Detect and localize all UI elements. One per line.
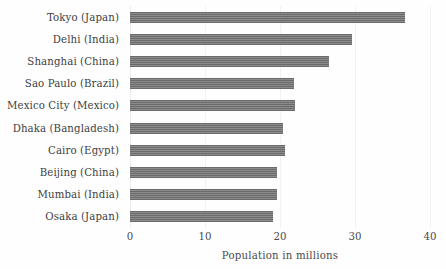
bar[interactable] — [130, 123, 283, 134]
bar[interactable] — [130, 34, 352, 45]
bar[interactable] — [130, 100, 295, 111]
category-label: Beijing (China) — [40, 167, 119, 179]
bar[interactable] — [130, 12, 405, 23]
bar[interactable] — [130, 211, 273, 222]
gridline — [430, 6, 431, 228]
x-axis-tick-label: 30 — [335, 231, 375, 242]
category-label: Mexico City (Mexico) — [7, 100, 119, 112]
category-label: Osaka (Japan) — [45, 211, 119, 223]
x-axis-tick-label: 0 — [110, 231, 150, 242]
category-label: Dhaka (Bangladesh) — [13, 123, 119, 135]
bar[interactable] — [130, 189, 277, 200]
bar[interactable] — [130, 167, 277, 178]
x-axis-tick-label: 10 — [185, 231, 225, 242]
gridline — [355, 6, 356, 228]
y-axis-category-labels: Tokyo (Japan)Delhi (India)Shanghai (Chin… — [0, 6, 124, 228]
category-label: Delhi (India) — [53, 34, 119, 46]
bar[interactable] — [130, 78, 294, 89]
bar[interactable] — [130, 56, 329, 67]
x-axis-tick-label: 40 — [410, 231, 446, 242]
x-axis-title: Population in millions — [130, 250, 430, 261]
x-axis-tick-label: 20 — [260, 231, 300, 242]
category-label: Tokyo (Japan) — [47, 12, 119, 24]
plot-area — [130, 6, 430, 228]
category-label: Sao Paulo (Brazil) — [25, 78, 119, 90]
bar-chart: t Tokyo (Japan)Delhi (India)Shanghai (Ch… — [0, 0, 446, 269]
x-axis-tick-labels: 010203040 — [130, 231, 430, 245]
category-label: Shanghai (China) — [27, 56, 119, 68]
category-label: Cairo (Egypt) — [48, 145, 119, 157]
bar[interactable] — [130, 145, 285, 156]
category-label: Mumbai (India) — [37, 189, 119, 201]
